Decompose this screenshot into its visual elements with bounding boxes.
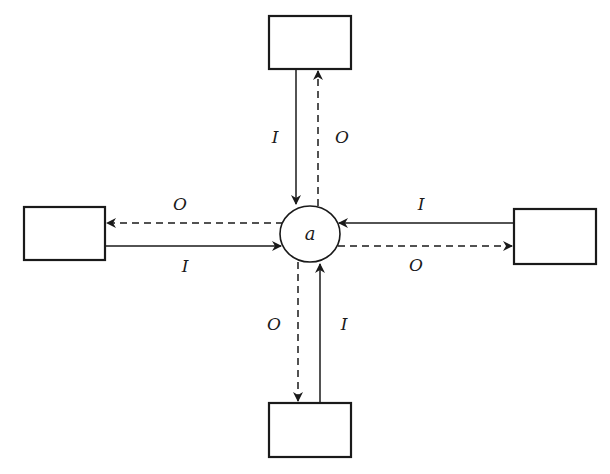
label-bottom-output: O [267,314,281,334]
box-bottom [269,403,351,457]
diagram-svg: a I O O I I O O I [0,0,610,474]
label-left-input: I [181,256,189,276]
label-top-input: I [271,127,279,147]
box-top [269,16,351,69]
diagram-canvas: a I O O I I O O I [0,0,610,474]
label-bottom-input: I [340,314,348,334]
box-left [24,207,105,260]
label-top-output: O [335,127,349,147]
label-right-input: I [417,194,425,214]
center-node-label: a [305,223,316,244]
label-left-output: O [173,194,187,214]
label-right-output: O [409,255,423,275]
box-right [514,209,596,264]
